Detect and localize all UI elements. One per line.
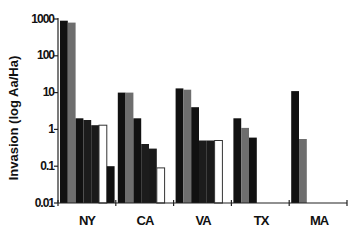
bar <box>99 125 107 203</box>
bar <box>176 88 184 203</box>
bar <box>199 141 207 204</box>
bar <box>157 168 165 203</box>
bar-chart: Invasion (log Aa/Ha) 1000 100 10 1 0.1 0… <box>0 0 354 239</box>
bar <box>118 93 126 203</box>
bar <box>83 120 91 203</box>
bar <box>191 107 199 203</box>
plot-area <box>0 0 354 239</box>
bar <box>126 93 134 203</box>
bar <box>76 118 84 203</box>
bar <box>215 141 223 204</box>
bar <box>107 166 115 203</box>
bar <box>183 90 191 203</box>
bar <box>291 91 299 203</box>
bar <box>249 138 257 203</box>
bar <box>149 149 157 203</box>
bar <box>299 139 307 203</box>
bar <box>91 125 99 203</box>
bar <box>141 144 149 203</box>
bar <box>60 21 68 203</box>
bar <box>133 118 141 203</box>
bar <box>241 128 249 203</box>
bar <box>68 23 76 203</box>
bar <box>233 118 241 203</box>
bar <box>207 141 215 204</box>
